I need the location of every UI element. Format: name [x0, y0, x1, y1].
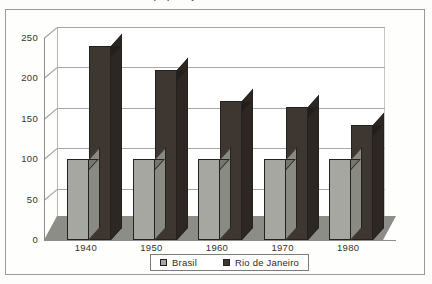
- depth-tick-100: [44, 148, 58, 160]
- chart-legend: BrasilRio de Janeiro: [150, 254, 309, 271]
- x-tick-label-1950: 1950: [121, 242, 181, 253]
- gridline-250: [57, 27, 385, 28]
- depth-tick-150: [44, 108, 58, 120]
- y-tick-label-50: 50: [4, 194, 38, 205]
- x-tick-label-1970: 1970: [253, 242, 313, 253]
- y-tick-label-150: 150: [4, 113, 38, 124]
- bar-brasil-1970: [264, 159, 286, 240]
- bar-front-face: [198, 159, 220, 240]
- bar-side-face: [242, 89, 253, 240]
- depth-tick-250: [44, 27, 58, 39]
- y-tick-label-200: 200: [4, 72, 38, 83]
- bar-side-face: [111, 34, 122, 240]
- legend-swatch-icon: [160, 259, 167, 266]
- bar-front-face: [329, 159, 351, 240]
- y-tick-label-0: 0: [4, 234, 38, 245]
- legend-entry-rio-de-janeiro[interactable]: Rio de Janeiro: [223, 257, 299, 268]
- bar-front-face: [133, 159, 155, 240]
- plot-area: 050100150200250 19401950196019701980 Bra…: [0, 0, 432, 284]
- x-tick-label-1940: 1940: [56, 242, 116, 253]
- bar-front-face: [67, 159, 89, 240]
- bar-front-face: [264, 159, 286, 240]
- x-tick-label-1960: 1960: [187, 242, 247, 253]
- legend-label: Brasil: [172, 257, 197, 268]
- x-axis-line: [44, 240, 396, 241]
- depth-tick-50: [44, 189, 58, 201]
- bar-side-face: [177, 58, 188, 240]
- bar-brasil-1980: [329, 159, 351, 240]
- bar-brasil-1950: [133, 159, 155, 240]
- figure-container: Crescimento da população do Brasil e do …: [0, 0, 432, 284]
- legend-label: Rio de Janeiro: [235, 257, 299, 268]
- y-tick-label-250: 250: [4, 32, 38, 43]
- legend-entry-brasil[interactable]: Brasil: [160, 257, 197, 268]
- y-tick-label-100: 100: [4, 153, 38, 164]
- y-axis-line: [44, 38, 45, 240]
- legend-swatch-icon: [223, 259, 230, 266]
- depth-tick-200: [44, 68, 58, 80]
- x-tick-label-1980: 1980: [318, 242, 378, 253]
- bar-brasil-1960: [198, 159, 220, 240]
- bar-brasil-1940: [67, 159, 89, 240]
